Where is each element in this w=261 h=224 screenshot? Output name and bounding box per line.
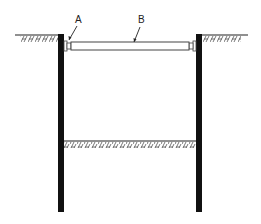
- excavation-base: [62, 141, 198, 148]
- left-wall: [58, 34, 64, 212]
- strut: [71, 42, 189, 50]
- label-b: B: [138, 14, 145, 25]
- connector-left: [64, 41, 71, 51]
- arrow-a: [69, 26, 78, 40]
- connector-right: [189, 41, 196, 51]
- ground-left: [15, 35, 60, 42]
- braced-excavation-diagram: A B: [0, 0, 261, 224]
- ground-right: [200, 35, 248, 42]
- label-a: A: [75, 14, 82, 25]
- arrow-b: [134, 27, 141, 42]
- right-wall: [196, 34, 202, 212]
